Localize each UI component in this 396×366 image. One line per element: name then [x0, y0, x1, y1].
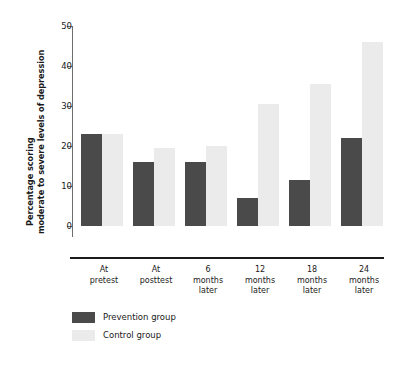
bar-group: Atpretest [78, 20, 130, 257]
bar-control[interactable] [362, 42, 383, 226]
bar-group: 12monthslater [234, 20, 286, 257]
bar-prevention[interactable] [341, 138, 362, 226]
bar-control[interactable] [154, 148, 175, 226]
legend-label: Prevention group [103, 312, 176, 322]
bar-control[interactable] [206, 146, 227, 226]
bar-prevention[interactable] [237, 198, 258, 226]
y-axis-line [72, 26, 73, 237]
bar-control[interactable] [102, 134, 123, 226]
x-axis-tick-label: 24monthslater [333, 265, 395, 297]
bar-group: Atposttest [130, 20, 182, 257]
y-axis-tick-label: 0 [50, 221, 72, 231]
legend-item[interactable]: Control group [72, 326, 292, 344]
plot-area: 01020304050 AtpretestAtposttest6monthsla… [72, 20, 384, 260]
bar-group: 24monthslater [338, 20, 390, 257]
x-axis-tick-label-line: 24 [333, 265, 395, 276]
y-axis-tick-label: 20 [50, 141, 72, 151]
legend: Prevention groupControl group [72, 308, 292, 344]
y-axis-tick-label: 50 [50, 21, 72, 31]
bar-prevention[interactable] [133, 162, 154, 226]
x-axis-tick-label-line: months [333, 276, 395, 287]
bar-group: 6monthslater [182, 20, 234, 257]
legend-item[interactable]: Prevention group [72, 308, 292, 326]
bar-group: 18monthslater [286, 20, 338, 257]
y-axis-title: Percentage scoring moderate to severe le… [14, 18, 54, 234]
legend-label: Control group [103, 330, 161, 340]
bar-prevention[interactable] [81, 134, 102, 226]
y-axis-tick-label: 40 [50, 61, 72, 71]
bar-prevention[interactable] [185, 162, 206, 226]
legend-swatch-icon [72, 312, 95, 323]
bar-control[interactable] [310, 84, 331, 226]
bar-chart: Percentage scoring moderate to severe le… [0, 0, 396, 366]
legend-swatch-icon [72, 330, 95, 341]
bar-control[interactable] [258, 104, 279, 226]
y-axis-title-line-2: moderate to severe levels of depression [36, 50, 46, 234]
y-axis-title-line-1: Percentage scoring [25, 137, 35, 226]
x-axis-line [70, 257, 384, 259]
bar-prevention[interactable] [289, 180, 310, 226]
y-axis-tick-label: 10 [50, 181, 72, 191]
x-axis-tick-label-line: later [333, 286, 395, 297]
y-axis-tick-label: 30 [50, 101, 72, 111]
